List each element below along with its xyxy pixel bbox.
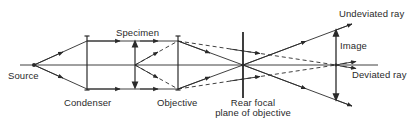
specimen-label: Specimen	[116, 27, 159, 38]
source-point	[32, 63, 36, 67]
undeviated-ray-label: Undeviated ray	[339, 8, 404, 19]
image-label: Image	[340, 40, 367, 51]
deviated-ray-label: Deviated ray	[352, 69, 407, 80]
rear-focal-label-line2: plane of objective	[208, 107, 298, 118]
objective-lens	[176, 36, 181, 90]
source-label: Source	[8, 70, 39, 81]
condenser-label: Condenser	[64, 97, 111, 108]
condenser-lens	[85, 36, 90, 90]
objective-label: Objective	[157, 97, 198, 108]
